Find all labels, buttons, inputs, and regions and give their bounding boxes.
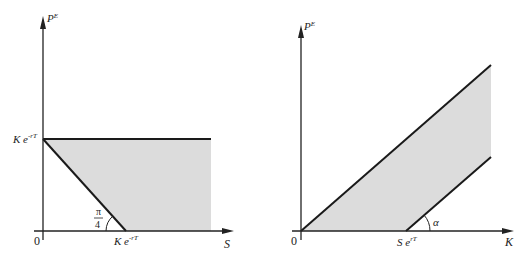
left-shaded-region: [43, 139, 211, 231]
right-x-tick-label: S erT: [397, 235, 418, 248]
left-angle-label: π 4: [94, 206, 103, 230]
left-x-tick-label: K e-rT: [113, 234, 139, 247]
left-x-axis-label: S: [224, 237, 230, 251]
right-x-axis-label: K: [504, 235, 514, 249]
option-bounds-diagram: PE S 0 K e-rT K e-rT π 4 PE: [0, 0, 523, 258]
right-y-axis-label: PE: [303, 20, 316, 32]
left-y-tick-label: K e-rT: [12, 132, 38, 145]
svg-text:4: 4: [95, 219, 100, 230]
right-panel: PE K 0 S erT α: [291, 20, 514, 249]
right-x-axis-arrow-icon: [502, 228, 514, 234]
right-origin-label: 0: [291, 234, 297, 248]
left-origin-label: 0: [34, 234, 40, 248]
left-angle-arc: [106, 216, 113, 231]
right-angle-label: α: [433, 216, 439, 228]
svg-text:π: π: [96, 206, 101, 217]
right-angle-arc: [424, 215, 430, 231]
left-y-axis-arrow-icon: [40, 16, 46, 29]
left-panel: PE S 0 K e-rT K e-rT π 4: [12, 12, 234, 251]
left-y-axis-label: PE: [46, 12, 59, 24]
left-x-axis-arrow-icon: [222, 228, 234, 234]
